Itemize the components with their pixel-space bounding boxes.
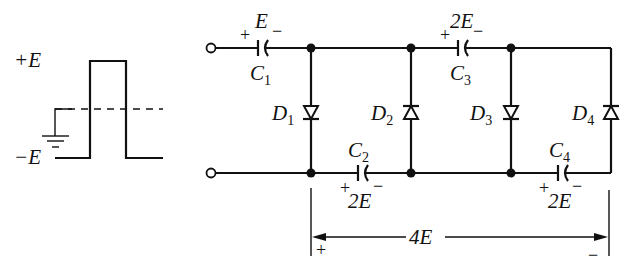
- d3-label: D3: [469, 101, 492, 128]
- output-minus-sign: −: [588, 245, 598, 265]
- input-terminal-bottom: [207, 169, 216, 178]
- c3-label: C3: [450, 61, 471, 88]
- c3-voltage-label: 2E: [450, 9, 474, 33]
- d1-label: D1: [271, 101, 294, 128]
- output-voltage-label: 4E: [409, 225, 433, 249]
- c1-label: C1: [250, 61, 271, 88]
- voltage-multiplier-diagram: +E −E: [0, 0, 632, 272]
- diode-down-icon: [304, 106, 318, 119]
- input-terminal-top: [207, 44, 216, 53]
- c1-plus-sign: +: [240, 25, 250, 45]
- diode-down-icon: [504, 106, 518, 119]
- c1-voltage-label: E: [254, 9, 268, 33]
- c2-minus-sign: −: [373, 176, 383, 196]
- input-waveform: +E −E: [14, 48, 163, 169]
- ground-lead: [55, 109, 72, 136]
- c4-voltage-label: 2E: [548, 189, 572, 213]
- d4-label: D4: [571, 101, 594, 128]
- c2-label: C2: [348, 138, 369, 165]
- c4-label: C4: [549, 138, 570, 165]
- waveform-plus-e-label: +E: [14, 48, 41, 72]
- ground-icon: [42, 136, 69, 147]
- d2-label: D2: [370, 101, 393, 128]
- capacitor-c2: C2 + − 2E: [340, 138, 383, 213]
- diode-up-icon: [404, 106, 418, 119]
- capacitor-c4: C4 + − 2E: [539, 138, 582, 213]
- diode-up-icon: [604, 106, 618, 119]
- c1-minus-sign: −: [272, 21, 282, 41]
- c2-voltage-label: 2E: [348, 189, 372, 213]
- c4-minus-sign: −: [572, 176, 582, 196]
- c3-plus-sign: +: [440, 25, 450, 45]
- waveform-minus-e-label: −E: [14, 145, 41, 169]
- arrow-right-icon: [594, 233, 608, 241]
- output-plus-sign: +: [316, 240, 326, 260]
- c3-minus-sign: −: [473, 21, 483, 41]
